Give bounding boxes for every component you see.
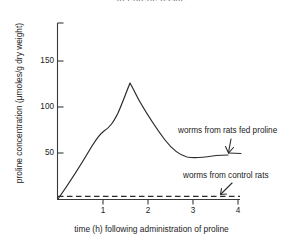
annotation-arrow-fed [226,139,242,154]
annotation-arrow-control [221,183,233,195]
y-axis-ticks [58,23,64,153]
chart-figure: in enteric tissue proline concentration … [0,0,303,242]
series-line-fed [58,83,228,199]
chart-plot-area [0,0,303,242]
x-axis-ticks [103,200,238,205]
